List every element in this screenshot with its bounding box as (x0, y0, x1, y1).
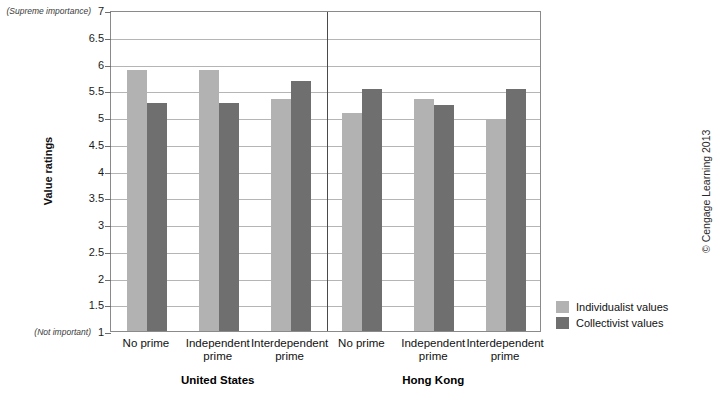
gridline (111, 173, 540, 174)
gridline (111, 306, 540, 307)
y-axis-tick-label: 6 (98, 59, 104, 71)
bar (127, 70, 147, 331)
gridline (111, 146, 540, 147)
y-axis-tick-label: 3.5 (89, 192, 104, 204)
y-axis-tick-mark (105, 199, 111, 200)
y-axis-tick-mark (105, 92, 111, 93)
y-axis-tick-mark (105, 12, 111, 13)
y-axis-tick-label: 2 (98, 273, 104, 285)
bar (342, 113, 362, 331)
y-axis-tick-mark (105, 333, 111, 334)
bar (271, 99, 291, 331)
y-axis-tick-mark (105, 280, 111, 281)
x-axis-category-label: Interdependent prime (450, 337, 560, 363)
group-divider-line (327, 12, 328, 331)
plot-area (110, 11, 541, 332)
bar (291, 81, 311, 331)
y-axis-tick-label: 5 (98, 112, 104, 124)
y-axis-tick-mark (105, 173, 111, 174)
y-axis-tick-label: 6.5 (89, 32, 104, 44)
y-axis-tick-label: 4 (98, 166, 104, 178)
y-axis-tick-mark (105, 39, 111, 40)
bar (506, 89, 526, 331)
legend-swatch-individualist-icon (556, 301, 569, 313)
y-axis-tick-mark (105, 226, 111, 227)
copyright-credit: © Cengage Learning 2013 (700, 130, 712, 253)
y-axis-tick-mark (105, 306, 111, 307)
y-axis-tick-label: 5.5 (89, 85, 104, 97)
x-axis-group-label: Hong Kong (326, 374, 542, 386)
bar (219, 103, 239, 331)
gridline (111, 39, 540, 40)
y-axis-tick-label: 4.5 (89, 139, 104, 151)
y-axis-tick-mark (105, 119, 111, 120)
y-axis-tick-mark (105, 146, 111, 147)
gridline (111, 92, 540, 93)
legend-swatch-collectivist-icon (556, 317, 569, 329)
bar (147, 103, 167, 331)
y-axis-tick-label: 7 (98, 5, 104, 17)
bar (199, 70, 219, 331)
gridline (111, 253, 540, 254)
y-axis-tick-label: 2.5 (89, 246, 104, 258)
bar (434, 105, 454, 331)
y-axis-title: Value ratings (42, 137, 54, 205)
gridline (111, 226, 540, 227)
chart-figure: 76.565.554.543.532.521.51(Supreme import… (0, 0, 727, 398)
y-axis-anchor-note: (Not important) (34, 327, 91, 337)
y-axis-tick-mark (105, 253, 111, 254)
legend-label-collectivist: Collectivist values (576, 317, 663, 329)
legend-item-collectivist: Collectivist values (556, 316, 668, 330)
gridline (111, 280, 540, 281)
gridline (111, 199, 540, 200)
bar (486, 119, 506, 331)
gridline (111, 66, 540, 67)
y-axis-anchor-note: (Supreme importance) (6, 6, 91, 16)
gridline (111, 119, 540, 120)
bar (362, 89, 382, 331)
x-axis-group-label: United States (110, 374, 326, 386)
y-axis-tick-mark (105, 66, 111, 67)
y-axis-tick-label: 3 (98, 219, 104, 231)
bar (414, 99, 434, 331)
legend-item-individualist: Individualist values (556, 300, 668, 314)
legend-label-individualist: Individualist values (576, 301, 668, 313)
chart-legend: Individualist values Collectivist values (556, 300, 668, 332)
y-axis-tick-label: 1.5 (89, 299, 104, 311)
